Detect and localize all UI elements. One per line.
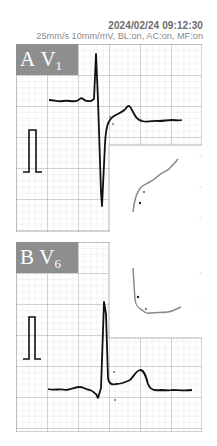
ecg-panel-a: A V1 [16, 44, 202, 232]
inset-a [109, 145, 202, 232]
inset-b [109, 242, 202, 338]
lead-label-a: A V1 [16, 44, 78, 75]
recording-header: 2024/02/24 09:12:30 25mm/s 10mm/mV, BL:o… [36, 20, 203, 42]
recording-settings: 25mm/s 10mm/mV, BL:on, AC:on, MF:on [36, 31, 203, 42]
lead-label-b: B V6 [16, 242, 78, 273]
timestamp: 2024/02/24 09:12:30 [36, 20, 203, 31]
ecg-panel-b: B V6 [16, 242, 202, 432]
